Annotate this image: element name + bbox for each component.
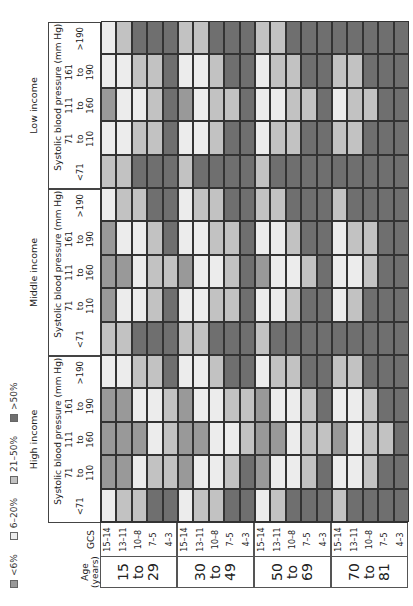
income-group-label: Middle income: [28, 189, 39, 356]
bp-title: Systolic blood pressure (mm Hg): [53, 358, 63, 505]
heatmap-cell: [163, 422, 178, 455]
heatmap-cell: [224, 322, 239, 355]
heatmap-cell: [132, 355, 147, 388]
heatmap-cell: [378, 288, 393, 321]
gcs-label: 13–11: [346, 523, 361, 556]
heatmap-cell: [363, 255, 378, 288]
heatmap-cell: [394, 489, 409, 522]
gcs-label: 4–3: [393, 523, 408, 556]
legend: <6%6–20%21–50%>50%: [6, 382, 22, 588]
heatmap-cell: [332, 422, 347, 455]
heatmap-cell: [116, 422, 131, 455]
legend-item: 6–20%: [9, 498, 19, 540]
heatmap-cell: [101, 221, 116, 254]
heatmap-cell: [132, 489, 147, 522]
heatmap-cell: [378, 221, 393, 254]
heatmap-cell: [224, 422, 239, 455]
heatmap-cell: [193, 355, 208, 388]
bp-title: Systolic blood pressure (mm Hg): [53, 191, 63, 338]
heatmap-cell: [378, 422, 393, 455]
heatmap-cell: [394, 21, 409, 54]
heatmap-cell: [193, 489, 208, 522]
heatmap-cell: [255, 21, 270, 54]
heatmap-cell: [163, 155, 178, 188]
heatmap-cell: [163, 255, 178, 288]
heatmap-cell: [347, 121, 362, 154]
age-separator: [177, 23, 179, 522]
heatmap-cell: [163, 121, 178, 154]
heatmap-cell: [363, 221, 378, 254]
heatmap-cell: [193, 88, 208, 121]
heatmap-cell: [394, 288, 409, 321]
heatmap-cell: [270, 54, 285, 87]
heatmap-cell: [332, 121, 347, 154]
heatmap-cell: [178, 88, 193, 121]
heatmap-cell: [317, 322, 332, 355]
heatmap-cell: [363, 188, 378, 221]
heatmap-cell: [240, 322, 255, 355]
heatmap-cell: [394, 422, 409, 455]
heatmap-cell: [378, 255, 393, 288]
gcs-label: 4–3: [162, 523, 177, 556]
heatmap-cell: [209, 255, 224, 288]
income-group-label: Low income: [28, 22, 39, 189]
heatmap-cell: [286, 155, 301, 188]
bp-label: <71: [64, 156, 96, 189]
heatmap-cell: [286, 88, 301, 121]
gcs-label: 7–5: [146, 523, 161, 556]
gcs-label: 10–8: [285, 523, 300, 556]
heatmap-cell: [178, 188, 193, 221]
heatmap-cell: [163, 322, 178, 355]
heatmap-cell: [270, 322, 285, 355]
heatmap-cell: [147, 489, 162, 522]
income-group-label: High income: [28, 356, 39, 523]
heatmap-cell: [270, 221, 285, 254]
heatmap-cell: [363, 155, 378, 188]
heatmap-cell: [394, 188, 409, 221]
heatmap-cell: [347, 188, 362, 221]
heatmap-cell: [270, 422, 285, 455]
heatmap-cell: [163, 489, 178, 522]
age-group-label: 15to29: [100, 556, 177, 588]
heatmap-cell: [317, 121, 332, 154]
heatmap-cell: [101, 322, 116, 355]
heatmap-cell: [163, 221, 178, 254]
heatmap-cell: [178, 288, 193, 321]
legend-swatch-icon: [10, 476, 18, 484]
heatmap-cell: [193, 422, 208, 455]
heatmap-cell: [193, 54, 208, 87]
heatmap-cell: [101, 54, 116, 87]
legend-item: 21–50%: [9, 436, 19, 484]
heatmap-cell: [301, 455, 316, 488]
bp-label: >190: [64, 22, 96, 55]
heatmap-cell: [301, 21, 316, 54]
heatmap-cell: [301, 188, 316, 221]
heatmap-cell: [378, 88, 393, 121]
legend-swatch-icon: [10, 580, 18, 588]
heatmap-cell: [224, 21, 239, 54]
row-headers: 15to2915–1413–1110–87–54–330to4915–1413–…: [100, 523, 408, 588]
heatmap-cell: [394, 221, 409, 254]
heatmap-cell: [270, 21, 285, 54]
heatmap-cell: [147, 355, 162, 388]
heatmap-cell: [332, 322, 347, 355]
heatmap-cell: [193, 121, 208, 154]
heatmap-cell: [301, 422, 316, 455]
heatmap-cell: [301, 355, 316, 388]
legend-item: >50%: [9, 382, 19, 422]
heatmap-cell: [317, 255, 332, 288]
legend-item: <6%: [9, 554, 19, 588]
heatmap-cell: [347, 21, 362, 54]
heatmap-cell: [132, 322, 147, 355]
bp-label: 111to160: [64, 256, 96, 289]
heatmap-cell: [209, 422, 224, 455]
heatmap-cell: [255, 355, 270, 388]
heatmap-cell: [116, 188, 131, 221]
gcs-label: 13–11: [269, 523, 284, 556]
heatmap-cell: [132, 388, 147, 421]
bp-label: >190: [64, 189, 96, 222]
heatmap-cell: [163, 388, 178, 421]
heatmap-cell: [270, 355, 285, 388]
bp-label: <71: [64, 490, 96, 523]
heatmap-cell: [116, 21, 131, 54]
